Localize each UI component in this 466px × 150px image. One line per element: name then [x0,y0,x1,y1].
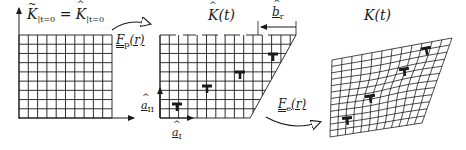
intermediate-config-label: K(t) [208,8,235,22]
axis-a-I-symbol: a [172,127,179,138]
lattice-line [353,55,362,134]
plastic-map-label: Fp(r) [116,34,145,49]
dislocation-symbol [172,103,182,112]
axis-a-I-sub: I [179,132,182,141]
plastic-map-arg: (r) [129,33,144,47]
dislocation-symbol [268,53,278,62]
axis-a-I-label: aI [172,127,182,141]
lattice-line [391,45,412,127]
burgers-sub: r [280,12,284,21]
equals-sign: = [60,6,72,22]
plastic-map-arrow [112,22,150,30]
axis-a-II-sub: II [148,105,154,114]
current-label: K(t) [364,7,391,23]
reference-lattice [19,35,112,118]
axis-a-II-label: aII [141,100,154,114]
lattice-line [376,49,392,130]
elastic-map-arg: (r) [291,97,306,111]
lattice-line [330,123,422,137]
reference-label-rhs-sub: |t=0 [86,15,104,24]
burgers-symbol: b [272,6,280,18]
reference-label-lhs-sub: |t=0 [37,15,55,24]
intermediate-lattice [160,35,296,118]
reference-config-label: K|t=0 = K|t=0 [27,7,104,24]
reference-label-rhs: K [76,6,86,22]
lattice-line [331,102,430,118]
hat-K: K [76,7,86,21]
current-config-label: K(t) [364,8,391,22]
dislocation-symbol [202,85,212,94]
elastic-map-label: Fe(r) [278,98,306,113]
dislocation-symbol [342,116,353,125]
intermediate-label: K(t) [208,7,235,23]
elastic-map-arrow [266,117,320,126]
diagram-canvas: K|t=0 = K|t=0 Fp(r) K(t) br aII aI Fe(r)… [0,0,466,150]
reference-label-lhs: K [27,6,37,22]
lattice-line [332,38,452,60]
burgers-vector-label: br [272,6,284,21]
dislocation-symbol [421,46,432,56]
tilde-K: K [27,7,37,21]
axis-a-II-symbol: a [141,100,148,111]
hat-K-intermediate: K(t) [208,8,235,22]
